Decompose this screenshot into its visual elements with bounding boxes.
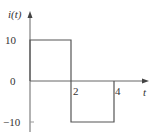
y-axis-label: i(t) [8,8,22,21]
x-axis-arrow-icon [142,79,149,84]
x-tick-2: 2 [73,85,79,97]
waveform-chart: i(t) 10 0 −10 2 4 t [0,0,158,140]
x-axis-label: t [143,86,147,98]
y-tick-10: 10 [5,34,17,46]
y-tick-0: 0 [10,75,16,87]
x-tick-4: 4 [115,85,121,97]
y-axis-arrow-icon [28,11,33,18]
y-tick-neg10: −10 [3,116,21,128]
